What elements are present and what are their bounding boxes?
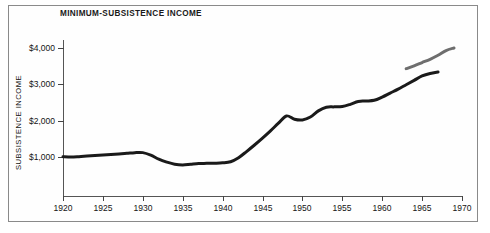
x-tick-label: 1965 bbox=[413, 203, 432, 213]
chart-frame bbox=[8, 5, 478, 222]
chart-figure: MINIMUM-SUBSISTENCE INCOME SUBSISTENCE I… bbox=[0, 0, 490, 233]
x-tick-label: 1960 bbox=[373, 203, 392, 213]
x-tick-label: 1970 bbox=[453, 203, 472, 213]
y-axis-line bbox=[63, 40, 64, 197]
x-tick-mark bbox=[422, 196, 423, 201]
x-tick-mark bbox=[63, 196, 64, 201]
x-tick-label: 1955 bbox=[333, 203, 352, 213]
x-tick-label: 1920 bbox=[54, 203, 73, 213]
x-tick-mark bbox=[143, 196, 144, 201]
y-axis-title: SUBSISTENCE INCOME bbox=[14, 68, 23, 178]
y-tick-mark bbox=[58, 157, 64, 158]
y-tick-label: $2,000 bbox=[29, 116, 55, 126]
y-tick-mark bbox=[58, 121, 64, 122]
x-tick-mark bbox=[183, 196, 184, 201]
y-tick-label: $3,000 bbox=[29, 79, 55, 89]
x-tick-mark bbox=[302, 196, 303, 201]
y-tick-label: $1,000 bbox=[29, 152, 55, 162]
x-tick-mark bbox=[103, 196, 104, 201]
x-tick-label: 1935 bbox=[174, 203, 193, 213]
x-tick-mark bbox=[462, 196, 463, 201]
x-tick-label: 1930 bbox=[134, 203, 153, 213]
x-tick-mark bbox=[223, 196, 224, 201]
x-tick-label: 1940 bbox=[214, 203, 233, 213]
y-tick-label: $4,000 bbox=[29, 43, 55, 53]
x-tick-mark bbox=[342, 196, 343, 201]
x-tick-label: 1950 bbox=[293, 203, 312, 213]
chart-title: MINIMUM-SUBSISTENCE INCOME bbox=[60, 9, 202, 18]
y-tick-mark bbox=[58, 84, 64, 85]
x-tick-mark bbox=[382, 196, 383, 201]
x-tick-mark bbox=[263, 196, 264, 201]
x-tick-label: 1945 bbox=[254, 203, 273, 213]
x-tick-label: 1925 bbox=[94, 203, 113, 213]
y-tick-mark bbox=[58, 48, 64, 49]
